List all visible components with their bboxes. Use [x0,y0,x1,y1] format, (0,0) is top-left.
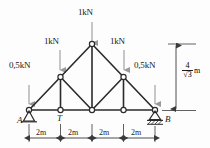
node-label-a: A [17,115,23,125]
member-rafter-left-upper [61,44,93,77]
joint-upper-right [121,74,126,79]
load-label-right-support: 0,5kN [134,60,155,70]
height-denominator: √3 [182,71,193,79]
member-rafter-right-lower [124,77,156,110]
joint-apex [89,41,94,46]
load-label-upper-left: 1kN [44,36,59,46]
joint-bottom-center [89,107,94,112]
load-label-upper-right: 1kN [110,36,125,46]
height-dimension-label: 4 √3 m [182,62,200,79]
span-label-2: 2m [68,128,78,137]
member-rafter-left-lower [29,77,61,110]
joint-upper-left [58,74,63,79]
truss-diagram: 0,5kN 1kN 1kN 1kN 0,5kN A T B 2m 2m 2m 2… [0,0,210,148]
member-diagonal-left [61,77,93,110]
node-label-b: B [165,114,171,124]
joint-bottom-right [121,107,126,112]
truss-drawing [0,0,210,148]
load-label-left-support: 0,5kN [9,60,30,70]
load-label-apex: 1kN [78,7,93,17]
truss-members [29,44,155,110]
height-numerator: 4 [182,62,193,70]
span-label-3: 2m [99,128,109,137]
node-label-t: T [57,113,62,123]
member-rafter-right-upper [92,44,124,77]
member-diagonal-right [92,77,124,110]
joint-t [58,107,63,112]
span-label-4: 2m [131,128,141,137]
height-unit: m [194,66,200,75]
span-label-1: 2m [36,128,46,137]
